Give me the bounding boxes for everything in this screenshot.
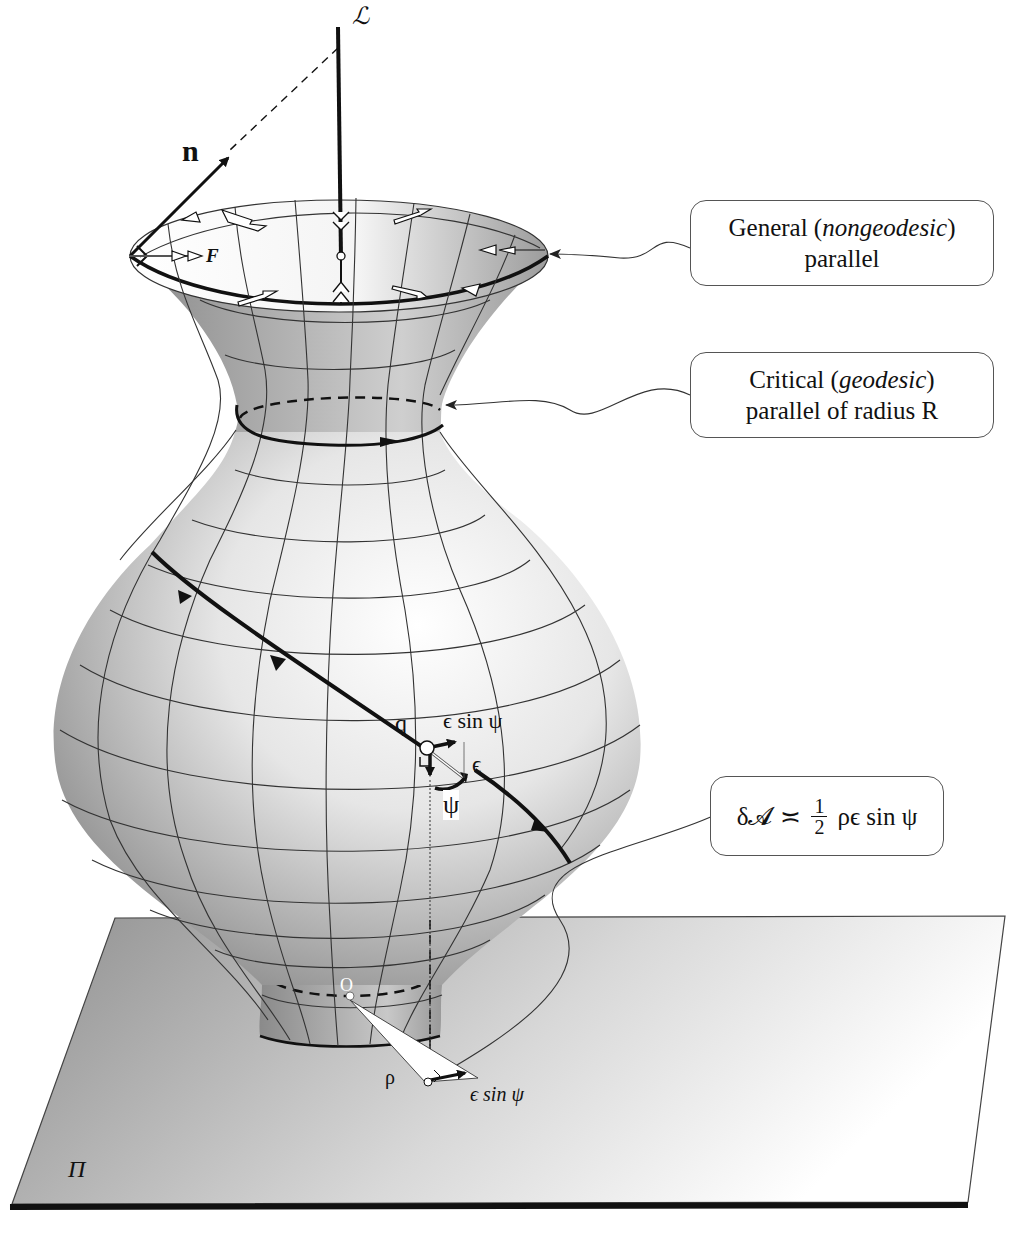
callout-critical-parallel: Critical (geodesic) parallel of radius R	[690, 352, 994, 438]
callout-critical-line1: Critical (geodesic)	[691, 364, 993, 395]
plane-label-pi: Π	[68, 1156, 85, 1183]
label-psi: ψ	[443, 790, 459, 820]
normal-label-n: n	[182, 134, 199, 168]
point-label-q: q	[395, 710, 407, 737]
formula-lhs: δ𝓐	[737, 801, 773, 832]
general-parallel-leader	[550, 242, 690, 258]
callout-general-parallel: General (nongeodesic) parallel	[690, 200, 994, 286]
callout-general-line1: General (nongeodesic)	[691, 212, 993, 243]
label-eps-sin-psi-bottom: ϵ sin ψ	[470, 1083, 524, 1106]
critical-parallel-leader	[446, 389, 690, 414]
axis-label-L: ℒ	[352, 2, 369, 30]
callout-area-formula: δ𝓐 ≍ 1 2 ρϵ sin ψ	[710, 776, 944, 856]
callout-general-line2: parallel	[691, 243, 993, 274]
label-eps-sin-psi-top: ϵ sin ψ	[443, 708, 502, 734]
area-formula: δ𝓐 ≍ 1 2 ρϵ sin ψ	[711, 777, 943, 855]
vase-surface-diagram: ℒ n F q ϵ sin ψ ϵ ψ ρ O ϵ sin ψ Π Genera…	[0, 0, 1019, 1246]
formula-fraction: 1 2	[811, 796, 827, 837]
label-epsilon: ϵ	[472, 752, 481, 778]
formula-relation: ≍	[780, 801, 801, 832]
label-rho: ρ	[385, 1066, 395, 1089]
formula-rhs: ρϵ sin ψ	[837, 801, 917, 832]
label-origin-O: O	[340, 975, 353, 996]
force-label-F: F	[206, 245, 219, 267]
plane-pi	[10, 916, 1005, 1207]
callout-critical-line2: parallel of radius R	[691, 395, 993, 426]
